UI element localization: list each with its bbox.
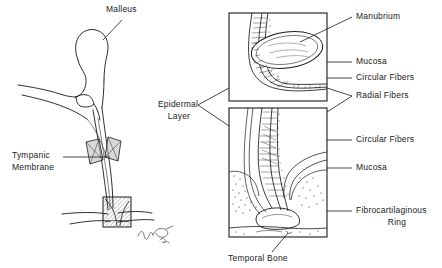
label-epidermal-layer-line2: Layer: [158, 111, 200, 122]
leader-epidermal-upper: [198, 88, 229, 105]
label-fibrocartilaginous-ring-line1: Fibrocartilaginous: [356, 205, 427, 216]
label-malleus: Malleus: [106, 4, 137, 15]
label-epidermal-layer-line1: Epidermal: [158, 99, 198, 110]
label-tympanic-membrane-line2: Membrane: [12, 162, 54, 173]
label-fibrocartilaginous-ring-line2: Ring: [356, 217, 438, 228]
leader-radial-lower: [327, 96, 352, 112]
label-mucosa-upper: Mucosa: [356, 56, 387, 67]
label-tympanic-membrane-line1: Tympanic: [12, 150, 50, 161]
leader-lines-left: [63, 20, 229, 157]
label-circular-fibers-upper: Circular Fibers: [356, 72, 414, 83]
label-circular-fibers-lower: Circular Fibers: [356, 134, 414, 145]
leader-malleus: [103, 20, 122, 40]
artist-signature: [138, 226, 173, 243]
malleus-drawing: [18, 30, 154, 225]
label-manubrium: Manubrium: [356, 11, 400, 22]
lower-histology-inset: [229, 108, 327, 237]
label-radial-fibers: Radial Fibers: [356, 90, 409, 101]
umbo-detail-box: [103, 197, 131, 227]
label-temporal-bone: Temporal Bone: [228, 253, 288, 264]
upper-histology-inset: [229, 13, 327, 101]
anatomical-figure: Malleus Tympanic Membrane Epidermal Laye…: [0, 0, 442, 268]
leader-radial-upper: [327, 88, 352, 96]
leader-epidermal-lower: [198, 105, 229, 126]
callout-box-left: [86, 139, 103, 164]
label-mucosa-lower: Mucosa: [356, 162, 387, 173]
